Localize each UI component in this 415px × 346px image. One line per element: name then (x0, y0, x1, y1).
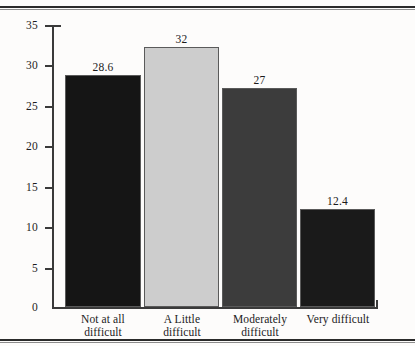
y-tick-label-15: 15 (4, 181, 38, 193)
bar-value-a-little-difficult: 32 (144, 33, 219, 45)
page-rule-bottom (0, 339, 415, 341)
bar-very-difficult[interactable] (300, 209, 375, 307)
x-category-label-line2: difficult (214, 326, 306, 339)
y-tick-label-20: 20 (4, 140, 38, 152)
x-category-label-line1: Very difficult (292, 313, 384, 326)
y-tick-label-5: 5 (4, 262, 38, 274)
y-tick-label-30: 30 (4, 59, 38, 71)
y-tick-15 (45, 187, 54, 189)
bar-a-little-difficult[interactable] (144, 47, 219, 307)
y-tick-20 (45, 146, 54, 148)
x-category-label-line1: Not at all (58, 313, 148, 326)
x-category-label-very-difficult: Very difficult (292, 313, 384, 326)
y-tick-25 (45, 106, 54, 108)
y-tick-5 (45, 268, 54, 270)
bar-value-not-at-all-difficult: 28.6 (65, 61, 141, 73)
x-axis-right-cap (376, 300, 378, 309)
bar-value-moderately-difficult: 27 (222, 74, 297, 86)
y-tick-label-35: 35 (4, 19, 38, 31)
y-axis-line (52, 25, 54, 309)
figure-page: 35 30 25 20 15 10 5 0 28.6 32 27 12.4 No… (0, 0, 415, 346)
bar-moderately-difficult[interactable] (222, 88, 297, 307)
y-tick-35 (45, 25, 54, 27)
bar-not-at-all-difficult[interactable] (65, 75, 141, 307)
x-axis-line (52, 307, 378, 309)
y-tick-label-25: 25 (4, 100, 38, 112)
y-tick-label-0: 0 (4, 301, 38, 313)
y-tick-10 (45, 227, 54, 229)
bar-chart-plot: 35 30 25 20 15 10 5 0 28.6 32 27 12.4 No… (0, 0, 415, 346)
x-category-label-line2: difficult (58, 326, 148, 339)
page-rule-bottom-thin (0, 342, 415, 343)
x-category-label-not-at-all-difficult: Not at all difficult (58, 313, 148, 338)
y-tick-30 (45, 65, 54, 67)
bar-value-very-difficult: 12.4 (300, 195, 375, 207)
y-tick-label-10: 10 (4, 221, 38, 233)
